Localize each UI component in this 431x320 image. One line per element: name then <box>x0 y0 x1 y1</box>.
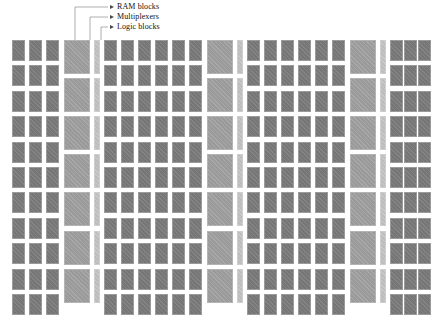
logic-block <box>46 116 59 137</box>
logic-block <box>247 294 260 315</box>
logic-block <box>315 294 328 315</box>
logic-block <box>46 218 59 239</box>
logic-block <box>298 142 311 163</box>
ram-block <box>350 231 376 265</box>
logic-block <box>264 91 277 112</box>
logic-block <box>121 91 134 112</box>
logic-block <box>29 294 42 315</box>
logic-block <box>12 65 25 86</box>
ram-block <box>350 40 376 74</box>
logic-block <box>104 192 117 213</box>
logic-block <box>418 269 431 290</box>
logic-block <box>46 142 59 163</box>
logic-block <box>138 116 151 137</box>
logic-block <box>29 116 42 137</box>
logic-block <box>281 167 294 188</box>
logic-block <box>281 40 294 61</box>
logic-block <box>332 218 345 239</box>
multiplexer-block <box>94 40 100 74</box>
logic-block <box>390 65 403 86</box>
logic-block <box>138 40 151 61</box>
logic-block <box>155 243 168 264</box>
logic-block <box>189 294 202 315</box>
logic-block <box>332 91 345 112</box>
ram-block <box>350 78 376 112</box>
ram-block <box>64 116 90 150</box>
multiplexer-block <box>94 192 100 226</box>
logic-block <box>298 269 311 290</box>
multiplexer-block <box>237 269 243 303</box>
multiplexer-block <box>380 231 386 265</box>
logic-block <box>104 65 117 86</box>
logic-block <box>404 294 417 315</box>
logic-block <box>104 269 117 290</box>
logic-block <box>189 65 202 86</box>
logic-block <box>121 167 134 188</box>
logic-block <box>155 294 168 315</box>
logic-block <box>46 40 59 61</box>
logic-block <box>12 91 25 112</box>
logic-block <box>138 218 151 239</box>
ram-block <box>207 78 233 112</box>
logic-block <box>315 192 328 213</box>
logic-block <box>315 91 328 112</box>
logic-block <box>29 218 42 239</box>
ram-block <box>64 192 90 226</box>
logic-block <box>104 116 117 137</box>
logic-block <box>172 243 185 264</box>
logic-block <box>404 40 417 61</box>
logic-block <box>155 142 168 163</box>
logic-block <box>46 65 59 86</box>
multiplexer-block <box>237 231 243 265</box>
logic-block <box>281 243 294 264</box>
logic-block <box>29 192 42 213</box>
logic-block <box>418 192 431 213</box>
ram-block <box>64 269 90 303</box>
logic-block <box>298 294 311 315</box>
ram-block <box>207 116 233 150</box>
logic-block <box>189 192 202 213</box>
ram-block <box>350 116 376 150</box>
logic-block <box>404 142 417 163</box>
logic-block <box>315 218 328 239</box>
logic-block <box>29 142 42 163</box>
logic-block <box>172 91 185 112</box>
logic-block <box>390 192 403 213</box>
logic-block <box>189 243 202 264</box>
logic-block <box>390 167 403 188</box>
ram-block <box>207 269 233 303</box>
logic-block <box>138 294 151 315</box>
ram-block <box>64 154 90 188</box>
multiplexer-block <box>380 116 386 150</box>
logic-block <box>29 91 42 112</box>
logic-block <box>12 167 25 188</box>
logic-block <box>172 116 185 137</box>
logic-block <box>281 91 294 112</box>
logic-block <box>12 269 25 290</box>
logic-block <box>12 192 25 213</box>
multiplexer-block <box>380 40 386 74</box>
logic-block <box>390 218 403 239</box>
logic-block <box>404 116 417 137</box>
logic-block <box>390 40 403 61</box>
logic-block <box>404 218 417 239</box>
logic-block <box>390 243 403 264</box>
logic-block <box>46 192 59 213</box>
logic-block <box>104 218 117 239</box>
logic-block <box>332 116 345 137</box>
logic-block <box>315 40 328 61</box>
logic-block <box>172 192 185 213</box>
logic-block <box>298 40 311 61</box>
logic-block <box>121 116 134 137</box>
logic-block <box>390 116 403 137</box>
logic-block <box>12 294 25 315</box>
logic-block <box>418 65 431 86</box>
multiplexer-block <box>237 40 243 74</box>
ram-block <box>64 231 90 265</box>
logic-block <box>264 192 277 213</box>
logic-block <box>155 116 168 137</box>
logic-block <box>281 218 294 239</box>
logic-block <box>121 65 134 86</box>
logic-block <box>298 116 311 137</box>
logic-block <box>172 294 185 315</box>
